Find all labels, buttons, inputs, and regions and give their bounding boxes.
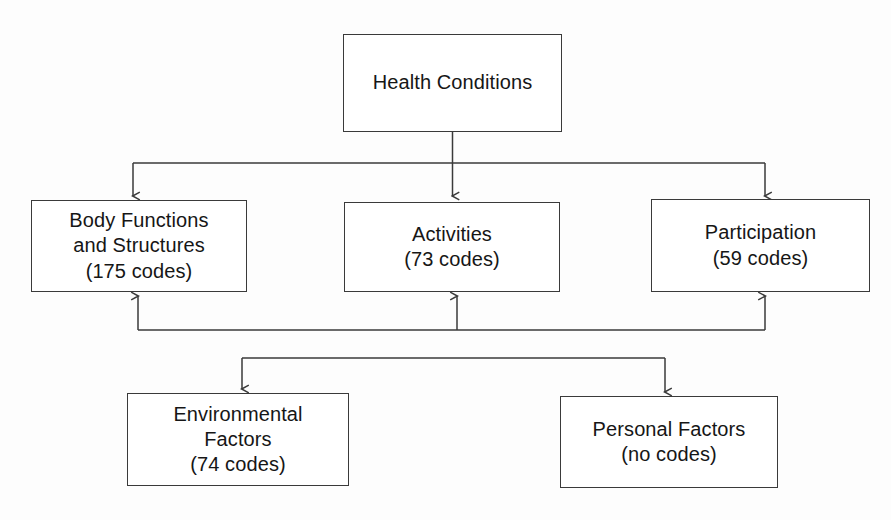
node-body-functions-and-structures: Body Functions and Structures (175 codes… — [31, 200, 247, 292]
node-body-functions-line-2: and Structures — [73, 233, 204, 258]
icf-model-diagram: Health Conditions Body Functions and Str… — [0, 0, 891, 520]
node-body-functions-line-1: Body Functions — [69, 208, 208, 233]
node-participation-code-count: (59 codes) — [713, 246, 809, 271]
node-body-functions-code-count: (175 codes) — [86, 259, 193, 284]
node-health-conditions-line-1: Health Conditions — [373, 70, 533, 95]
node-participation-line-1: Participation — [705, 220, 816, 245]
node-personal-factors: Personal Factors (no codes) — [560, 396, 778, 488]
node-personal-factors-line-1: Personal Factors — [593, 417, 746, 442]
node-activities-code-count: (73 codes) — [404, 247, 500, 272]
node-environmental-factors-code-count: (74 codes) — [190, 452, 286, 477]
node-activities-line-1: Activities — [412, 222, 492, 247]
node-participation: Participation (59 codes) — [651, 199, 870, 292]
node-activities: Activities (73 codes) — [344, 202, 560, 292]
node-environmental-factors-line-1: Environmental — [173, 402, 302, 427]
node-environmental-factors-line-2: Factors — [204, 427, 271, 452]
node-health-conditions: Health Conditions — [343, 34, 562, 132]
node-environmental-factors: Environmental Factors (74 codes) — [127, 393, 349, 486]
node-personal-factors-code-count: (no codes) — [621, 442, 717, 467]
